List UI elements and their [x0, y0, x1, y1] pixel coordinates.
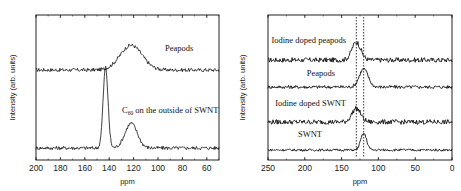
- right-nmr-chart: 250200150100500ppmIntensity (arb. units)…: [230, 0, 461, 191]
- x-tick-label: 140: [102, 163, 116, 173]
- x-axis-label: ppm: [120, 177, 135, 186]
- x-tick-label: 150: [335, 163, 349, 173]
- x-tick-label: 200: [298, 163, 312, 173]
- series-label: Iodine doped SWNT: [275, 98, 347, 108]
- x-tick-label: 0: [450, 163, 455, 173]
- left-chart-canvas: 2001801601401201008060ppmIntensity (arb.…: [0, 0, 230, 191]
- x-tick-label: 100: [151, 163, 165, 173]
- series-line: [268, 133, 452, 151]
- x-tick-label: 180: [53, 163, 67, 173]
- y-axis-label: Intensity (arb. units): [238, 54, 247, 120]
- series-label: C60 on the outside of SWNT: [122, 105, 219, 116]
- x-tick-label: 80: [178, 163, 188, 173]
- x-axis-label: ppm: [353, 177, 368, 186]
- series-label: Peapods: [307, 68, 335, 78]
- series-line: [268, 68, 452, 89]
- x-tick-label: 160: [78, 163, 92, 173]
- series-label: Iodine doped peapods: [271, 35, 346, 45]
- x-tick-label: 60: [202, 163, 212, 173]
- left-nmr-chart: 2001801601401201008060ppmIntensity (arb.…: [0, 0, 230, 191]
- plot-frame: [36, 15, 219, 160]
- x-tick-label: 100: [371, 163, 385, 173]
- x-tick-label: 120: [127, 163, 141, 173]
- x-tick-label: 50: [410, 163, 420, 173]
- right-chart-canvas: 250200150100500ppmIntensity (arb. units)…: [230, 0, 461, 191]
- x-tick-label: 200: [29, 163, 43, 173]
- x-tick-label: 250: [261, 163, 275, 173]
- series-label: Peapods: [165, 43, 193, 53]
- series-label: SWNT: [298, 129, 323, 139]
- series-line: [268, 106, 452, 124]
- y-axis-label: Intensity (arb. units): [8, 54, 17, 120]
